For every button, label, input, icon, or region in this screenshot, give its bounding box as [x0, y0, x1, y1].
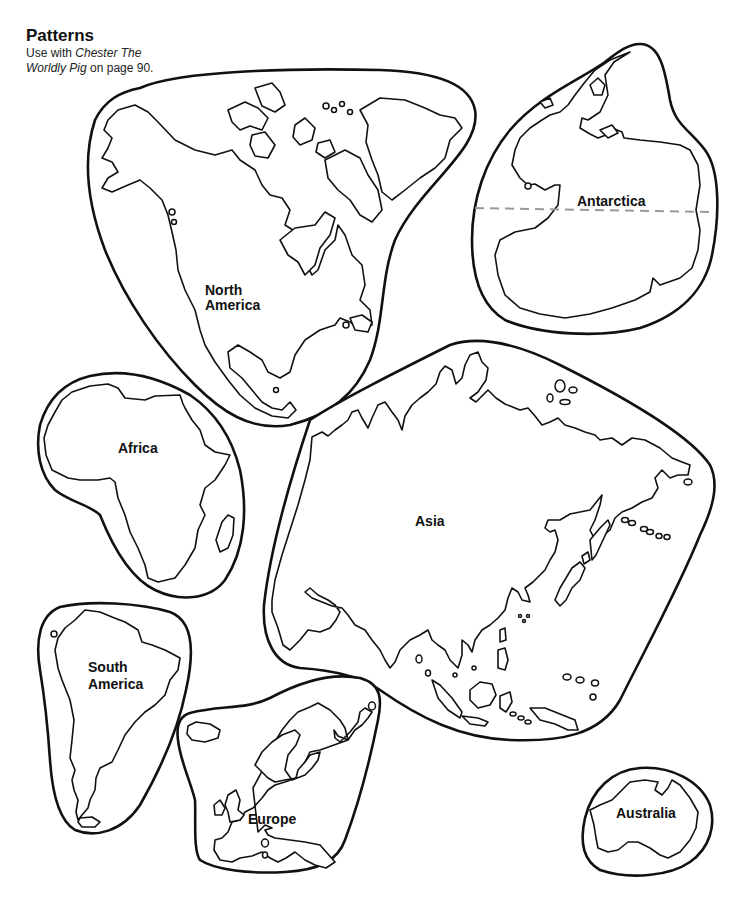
- pacific-islet: [563, 674, 571, 680]
- antarctic-islet: [525, 183, 531, 189]
- andaman-islet: [426, 670, 431, 676]
- europe-piece[interactable]: Europe: [178, 676, 381, 872]
- arctic-islet: [340, 102, 345, 107]
- indonesian-islet: [518, 716, 524, 720]
- pacific-islet: [590, 694, 596, 700]
- arctic-islet: [547, 394, 553, 402]
- asia-label: Asia: [415, 513, 445, 529]
- antarctica-label: Antarctica: [577, 193, 646, 209]
- ryukyu-islet: [523, 620, 526, 623]
- sri-lanka: [416, 655, 422, 663]
- australia-label: Australia: [616, 805, 676, 821]
- kuril-islet: [647, 530, 654, 535]
- europe-label: Europe: [248, 811, 296, 827]
- kuril-islet: [629, 521, 636, 526]
- aleutian-islet: [684, 479, 692, 485]
- europe-islet: [369, 702, 376, 710]
- kuril-islet: [656, 534, 662, 539]
- south-america-piece[interactable]: South America: [38, 603, 191, 833]
- indonesian-islet: [510, 712, 516, 716]
- arctic-islet: [560, 400, 570, 405]
- sardinia: [263, 852, 268, 858]
- south-america-label-line1: South: [88, 659, 128, 675]
- ryukyu-islet: [527, 615, 530, 618]
- indonesian-islet: [525, 720, 531, 724]
- corsica: [262, 839, 269, 847]
- pacific-islet: [592, 680, 599, 686]
- north-america-label-line1: North: [205, 282, 242, 298]
- south-america-label-line2: America: [88, 676, 143, 692]
- taiwan: [500, 628, 506, 642]
- antarctica-piece[interactable]: Antarctica: [472, 44, 717, 334]
- arctic-islet: [555, 380, 565, 392]
- islet: [453, 673, 457, 677]
- arctic-islet: [332, 108, 337, 113]
- bermuda-islet: [343, 322, 349, 328]
- coastal-islet: [169, 209, 175, 215]
- continent-patterns-map: North America Antarctica Africa: [0, 0, 742, 905]
- ryukyu-islet: [519, 615, 522, 618]
- pacific-islet: [576, 677, 584, 683]
- caribbean-islet: [274, 388, 279, 393]
- arctic-islet: [323, 103, 329, 109]
- arctic-islet: [348, 110, 353, 115]
- africa-piece[interactable]: Africa: [38, 373, 244, 597]
- kuril-islet: [622, 518, 629, 523]
- africa-label: Africa: [118, 440, 158, 456]
- kuril-islet: [664, 535, 670, 540]
- coastal-islet: [172, 220, 177, 225]
- australia-piece[interactable]: Australia: [583, 768, 713, 876]
- arctic-islet: [569, 387, 577, 393]
- philippines: [498, 648, 508, 670]
- islet: [472, 666, 476, 670]
- galapagos-islet: [51, 631, 57, 637]
- north-america-label-line2: America: [205, 297, 260, 313]
